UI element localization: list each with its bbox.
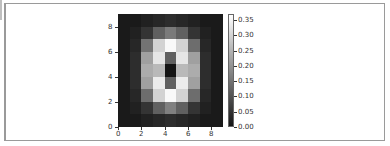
colorbar-tick-label: 0.05 <box>238 109 254 116</box>
heatmap-cell <box>118 27 130 40</box>
heatmap-cell <box>118 14 130 27</box>
heatmap-cell <box>141 114 153 127</box>
heatmap-cell <box>130 27 142 40</box>
heatmap-cell <box>130 52 142 65</box>
heatmap-cell <box>153 27 165 40</box>
heatmap-cell <box>211 89 223 102</box>
colorbar <box>228 14 234 127</box>
colorbar-tick-label: 0.10 <box>238 93 254 100</box>
heatmap-cell <box>176 64 188 77</box>
heatmap-cell <box>130 14 142 27</box>
heatmap-cell <box>211 27 223 40</box>
heatmap-cell <box>130 89 142 102</box>
heatmap-cell <box>153 64 165 77</box>
heatmap-cell <box>200 114 212 127</box>
heatmap-cell <box>211 114 223 127</box>
heatmap-cell <box>141 39 153 52</box>
heatmap-cell <box>176 14 188 27</box>
heatmap-cell <box>141 102 153 115</box>
heatmap-cell <box>165 64 177 77</box>
heatmap-cell <box>118 77 130 90</box>
heatmap-cell <box>188 89 200 102</box>
heatmap-cell <box>165 114 177 127</box>
y-tick-label: 2 <box>108 99 112 106</box>
heatmap-cell <box>211 102 223 115</box>
heatmap-cell <box>118 102 130 115</box>
colorbar-tick-label: 0.35 <box>238 17 254 24</box>
heatmap-cell <box>188 64 200 77</box>
heatmap-cell <box>176 102 188 115</box>
x-tick-label: 4 <box>163 131 167 138</box>
colorbar-tick-mark <box>234 20 237 21</box>
heatmap-cell <box>176 89 188 102</box>
heatmap-cell <box>118 114 130 127</box>
heatmap-cell <box>176 27 188 40</box>
colorbar-tick-mark <box>234 127 237 128</box>
heatmap-cell <box>200 14 212 27</box>
heatmap-cell <box>211 64 223 77</box>
heatmap-cell <box>153 114 165 127</box>
heatmap-cell <box>200 52 212 65</box>
heatmap-cell <box>153 89 165 102</box>
heatmap-cell <box>153 52 165 65</box>
colorbar-tick-mark <box>234 81 237 82</box>
heatmap-cell <box>165 77 177 90</box>
colorbar-tick-label: 0.20 <box>238 63 254 70</box>
x-tick-label: 0 <box>116 131 120 138</box>
colorbar-tick-mark <box>234 35 237 36</box>
heatmap-cell <box>200 89 212 102</box>
heatmap-cell <box>211 39 223 52</box>
y-tick-label: 4 <box>108 74 112 81</box>
heatmap-cell <box>165 39 177 52</box>
colorbar-tick-label: 0.15 <box>238 78 254 85</box>
heatmap-cell <box>165 102 177 115</box>
y-tick-label: 6 <box>108 49 112 56</box>
heatmap-cell <box>141 77 153 90</box>
y-tick-mark <box>115 102 118 103</box>
heatmap-cell <box>153 77 165 90</box>
x-tick-label: 2 <box>139 131 143 138</box>
heatmap-cell <box>200 102 212 115</box>
x-tick-label: 8 <box>209 131 213 138</box>
heatmap-cell <box>130 64 142 77</box>
corner-mark <box>0 0 2 20</box>
heatmap-cell <box>200 77 212 90</box>
heatmap-cell <box>165 27 177 40</box>
heatmap-cell <box>188 27 200 40</box>
x-tick-label: 6 <box>186 131 190 138</box>
heatmap-cell <box>141 64 153 77</box>
colorbar-tick-label: 0.25 <box>238 48 254 55</box>
heatmap-plot <box>118 14 223 127</box>
heatmap-cell <box>188 14 200 27</box>
colorbar-tick-label: 0.00 <box>238 124 254 131</box>
heatmap-cell <box>188 77 200 90</box>
heatmap-cell <box>141 52 153 65</box>
colorbar-tick-mark <box>234 96 237 97</box>
heatmap-cell <box>176 77 188 90</box>
heatmap-cell <box>118 64 130 77</box>
heatmap-cell <box>211 77 223 90</box>
heatmap-cell <box>141 27 153 40</box>
heatmap-cell <box>176 114 188 127</box>
heatmap-cell <box>211 14 223 27</box>
heatmap-cell <box>118 39 130 52</box>
heatmap-cell <box>176 52 188 65</box>
colorbar-tick-mark <box>234 112 237 113</box>
heatmap-cell <box>130 39 142 52</box>
heatmap-cell <box>188 102 200 115</box>
heatmap-cell <box>165 89 177 102</box>
y-tick-mark <box>115 52 118 53</box>
heatmap-cell <box>188 52 200 65</box>
heatmap-cell <box>130 77 142 90</box>
colorbar-tick-label: 0.30 <box>238 32 254 39</box>
heatmap-cell <box>200 27 212 40</box>
heatmap-cell <box>130 102 142 115</box>
heatmap-cell <box>165 52 177 65</box>
heatmap-cell <box>200 39 212 52</box>
heatmap-cell <box>141 14 153 27</box>
heatmap-cell <box>211 52 223 65</box>
colorbar-tick-mark <box>234 51 237 52</box>
heatmap-cell <box>165 14 177 27</box>
heatmap-cell <box>153 39 165 52</box>
heatmap-cell <box>200 64 212 77</box>
